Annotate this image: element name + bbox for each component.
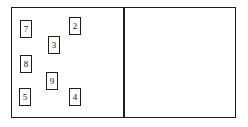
marker-label: 5	[23, 93, 28, 102]
diagram-canvas: 7 2 3 8 9 5 4	[0, 0, 248, 127]
marker-box[interactable]: 7	[20, 20, 32, 38]
vertical-divider	[123, 7, 125, 118]
marker-box[interactable]: 8	[20, 55, 32, 73]
marker-label: 2	[73, 22, 78, 31]
marker-label: 8	[24, 60, 29, 69]
marker-box[interactable]: 3	[48, 36, 60, 54]
marker-label: 3	[52, 41, 57, 50]
marker-box[interactable]: 4	[69, 88, 81, 106]
marker-label: 7	[24, 25, 29, 34]
marker-box[interactable]: 5	[19, 88, 31, 106]
marker-box[interactable]: 2	[69, 17, 81, 35]
marker-label: 9	[50, 77, 55, 86]
marker-box[interactable]: 9	[46, 72, 58, 90]
marker-label: 4	[73, 93, 78, 102]
right-panel	[125, 8, 235, 117]
